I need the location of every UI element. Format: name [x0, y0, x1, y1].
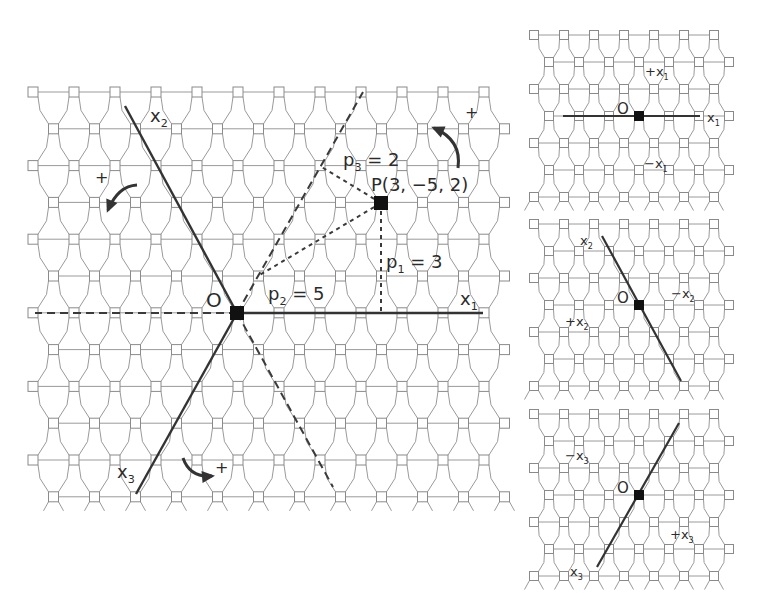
lattice-node [725, 355, 734, 364]
lattice-node [680, 518, 689, 527]
lattice-node [192, 87, 202, 97]
lattice-node [665, 545, 674, 554]
lattice-node [665, 247, 674, 256]
lattice-node [172, 124, 182, 134]
lattice-node [530, 139, 539, 148]
lattice-node [650, 85, 659, 94]
positive-rotation-sign: + [95, 168, 108, 187]
lattice-node [620, 464, 629, 473]
lattice-node [459, 492, 469, 502]
lattice-node [710, 274, 719, 283]
lattice-node [680, 410, 689, 419]
lattice-node [710, 382, 719, 391]
lattice-node [418, 345, 428, 355]
origin-marker [230, 306, 244, 320]
lattice-node [459, 271, 469, 281]
lattice-node [545, 301, 554, 310]
panel-lattice-grid [525, 31, 734, 211]
lattice-node [213, 492, 223, 502]
lattice-node [233, 455, 243, 465]
panel-origin-label: O [617, 289, 629, 307]
lattice-node [151, 381, 161, 391]
lattice-node [575, 437, 584, 446]
lattice-node [530, 85, 539, 94]
lattice-node [274, 455, 284, 465]
lattice-node [274, 87, 284, 97]
lattice-node [575, 355, 584, 364]
lattice-node [479, 455, 489, 465]
lattice-node [233, 87, 243, 97]
lattice-node [575, 491, 584, 500]
lattice-node [110, 234, 120, 244]
panel-origin-marker [634, 300, 644, 310]
lattice-node [151, 87, 161, 97]
lattice-node [560, 85, 569, 94]
lattice-node [545, 58, 554, 67]
lattice-node [28, 455, 38, 465]
lattice-node [620, 220, 629, 229]
lattice-node [69, 87, 79, 97]
rotation-arrow-top-right: + [431, 103, 478, 168]
lattice-node [69, 161, 79, 171]
x1-axis-label: x1 [460, 288, 478, 313]
lattice-node [650, 518, 659, 527]
lattice-node [479, 234, 489, 244]
lattice-node [560, 464, 569, 473]
lattice-node [377, 418, 387, 428]
x1-panel: Ox1+x1−x1 [525, 31, 734, 211]
lattice-node [500, 197, 510, 207]
lattice-node [635, 355, 644, 364]
side-panels: Ox1+x1−x1Ox2−x2+x2Ox3−x3+x3 [525, 31, 734, 590]
lattice-node [650, 139, 659, 148]
lattice-node [336, 271, 346, 281]
panel-origin-marker [634, 111, 644, 121]
lattice-node [590, 464, 599, 473]
lattice-node [680, 85, 689, 94]
lattice-node [545, 437, 554, 446]
lattice-node [710, 139, 719, 148]
lattice-node [254, 197, 264, 207]
lattice-node [397, 455, 407, 465]
lattice-node [479, 161, 489, 171]
lattice-node [590, 382, 599, 391]
lattice-node [635, 166, 644, 175]
lattice-node [438, 87, 448, 97]
lattice-node [438, 161, 448, 171]
lattice-node [560, 382, 569, 391]
lattice-node [397, 381, 407, 391]
lattice-node [530, 464, 539, 473]
lattice-node [356, 381, 366, 391]
lattice-node [336, 197, 346, 207]
panel-origin-label: O [617, 479, 629, 497]
lattice-node [620, 139, 629, 148]
positive-rotation-sign: + [465, 103, 478, 122]
lattice-node [377, 345, 387, 355]
p3-label: p3 = 2 [343, 149, 400, 174]
lattice-node [710, 410, 719, 419]
lattice-node [530, 572, 539, 581]
lattice-node [315, 381, 325, 391]
lattice-node [295, 492, 305, 502]
lattice-node [28, 381, 38, 391]
lattice-node [131, 345, 141, 355]
lattice-node [315, 234, 325, 244]
panel-direction-label: −x1 [644, 156, 668, 174]
lattice-node [438, 455, 448, 465]
lattice-node [560, 31, 569, 40]
lattice-node [620, 328, 629, 337]
lattice-node [418, 492, 428, 502]
lattice-node [680, 328, 689, 337]
lattice-node [315, 87, 325, 97]
lattice-node [356, 234, 366, 244]
lattice-node [151, 234, 161, 244]
lattice-node [530, 193, 539, 202]
lattice-node [131, 271, 141, 281]
lattice-node [605, 437, 614, 446]
lattice-node [695, 58, 704, 67]
lattice-node [725, 545, 734, 554]
lattice-node [665, 491, 674, 500]
lattice-node [336, 418, 346, 428]
lattice-node [710, 193, 719, 202]
lattice-node [665, 301, 674, 310]
lattice-node [710, 31, 719, 40]
